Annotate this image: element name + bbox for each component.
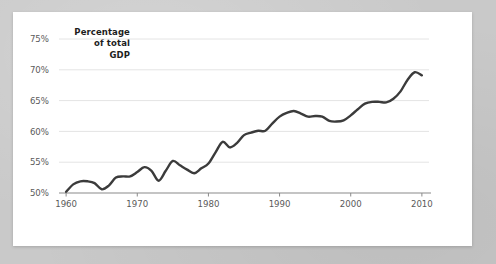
line-chart: 50%55%60%65%70%75% 196019701980199020002… [13, 12, 472, 246]
y-axis-tick-label: 55% [30, 157, 49, 167]
x-axis-tick-label: 1970 [126, 199, 148, 209]
x-axis-tick-label: 1960 [55, 199, 77, 209]
y-axis-tick-label: 50% [30, 188, 49, 198]
x-axis-tick-label: 2000 [340, 199, 362, 209]
chart-card: Percentage of total GDP 50%55%60%65%70%7… [13, 12, 472, 246]
y-axis-tick-label: 60% [30, 127, 49, 137]
y-axis-tick-label: 70% [30, 65, 49, 75]
series-line [66, 72, 422, 192]
x-axis-tick-label: 1980 [197, 199, 219, 209]
x-axis-tick-labels: 196019701980199020002010 [55, 199, 433, 209]
y-axis-tick-label: 65% [30, 96, 49, 106]
y-axis-tick-label: 75% [30, 34, 49, 44]
y-axis-tick-labels: 50%55%60%65%70%75% [30, 34, 49, 198]
x-axis-tick-label: 2010 [411, 199, 433, 209]
x-axis-tick-label: 1990 [269, 199, 291, 209]
data-series-line [66, 72, 422, 192]
chart-svg: 50%55%60%65%70%75% 196019701980199020002… [13, 12, 472, 246]
